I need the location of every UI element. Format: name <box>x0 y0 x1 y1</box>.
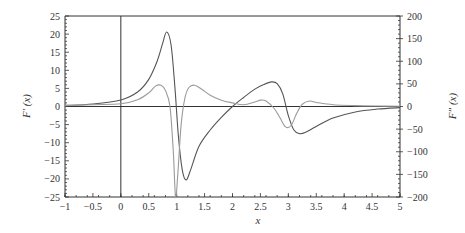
right-tick-label: 100 <box>407 56 422 67</box>
left-tick-label: 10 <box>50 65 60 76</box>
left-tick-label: 0 <box>55 101 60 112</box>
left-tick-label: −15 <box>44 155 60 166</box>
x-tick-label: 0 <box>118 201 123 212</box>
right-tick-label: −150 <box>407 169 428 180</box>
x-tick-label: 2 <box>230 201 235 212</box>
right-tick-label: 50 <box>407 78 417 89</box>
x-axis-title: x <box>255 214 261 226</box>
x-tick-label: 3 <box>286 201 291 212</box>
x-tick-label: 0.5 <box>143 201 156 212</box>
x-tick-label: 1.5 <box>198 201 211 212</box>
left-tick-label: −10 <box>44 137 60 148</box>
left-tick-label: 20 <box>50 29 60 40</box>
x-tick-label: −1 <box>60 201 71 212</box>
chart: 2520151050−5−10−15−20−25 200150100500−50… <box>0 0 465 233</box>
x-tick-label: −0.5 <box>84 201 102 212</box>
left-y-axis-title: F′ (x) <box>20 94 33 119</box>
right-tick-label: −100 <box>407 146 428 157</box>
x-tick-label: 5 <box>398 201 403 212</box>
chart-background <box>0 0 465 233</box>
right-tick-label: 0 <box>407 101 412 112</box>
x-tick-label: 1 <box>174 201 179 212</box>
left-tick-label: −20 <box>44 173 60 184</box>
right-tick-label: 200 <box>407 11 422 22</box>
x-tick-label: 4 <box>342 201 347 212</box>
left-tick-label: 15 <box>50 47 60 58</box>
x-tick-label: 3.5 <box>310 201 323 212</box>
left-tick-label: −25 <box>44 192 60 203</box>
left-tick-label: −5 <box>49 119 60 130</box>
x-tick-label: 4.5 <box>366 201 379 212</box>
right-tick-label: 150 <box>407 33 422 44</box>
x-tick-label: 2.5 <box>254 201 267 212</box>
right-tick-label: −50 <box>407 124 423 135</box>
left-tick-label: 5 <box>55 83 60 94</box>
right-tick-label: −200 <box>407 192 428 203</box>
left-tick-label: 25 <box>50 11 60 22</box>
right-y-axis-title: F″ (x) <box>446 93 459 121</box>
